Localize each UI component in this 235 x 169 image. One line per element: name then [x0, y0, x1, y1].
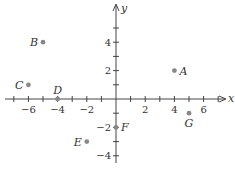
x-tick-label: 6	[200, 104, 206, 115]
x-tick-label: −4	[50, 104, 65, 115]
x-axis-label: x	[228, 92, 235, 105]
point-label-c: C	[15, 79, 24, 92]
point-c	[26, 82, 31, 87]
point-label-e: E	[73, 136, 82, 149]
y-tick-label: 2	[105, 65, 111, 76]
point-label-b: B	[29, 36, 38, 49]
x-tick-label: 4	[171, 104, 177, 115]
x-tick-label: 2	[142, 104, 148, 115]
point-g	[187, 111, 192, 116]
point-label-g: G	[185, 117, 194, 130]
x-tick-label: −2	[79, 104, 94, 115]
point-label-f: F	[120, 121, 129, 134]
y-tick-label: 4	[105, 37, 111, 48]
axes: xy	[5, 2, 235, 163]
point-e	[84, 139, 89, 144]
point-a	[172, 68, 177, 73]
y-axis-label: y	[120, 2, 128, 15]
y-tick-label: −2	[96, 122, 111, 133]
x-tick-label: −6	[21, 104, 36, 115]
point-label-d: D	[52, 84, 62, 97]
point-label-a: A	[178, 65, 187, 78]
coordinate-plane: xy −6−4−2246−4−224 ABCDEFG	[0, 0, 235, 169]
point-b	[41, 40, 46, 45]
point-f	[114, 125, 119, 130]
y-tick-label: −4	[96, 150, 111, 161]
point-d	[55, 97, 60, 102]
